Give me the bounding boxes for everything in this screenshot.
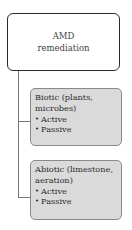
bullet-text: Passive — [41, 124, 72, 134]
list-item: • Passive — [35, 196, 118, 206]
biotic-title-line-1: Biotic (plants, — [35, 92, 118, 103]
bullet-text: Active — [41, 114, 67, 124]
abiotic-title-line-2: aeration) — [35, 175, 118, 186]
biotic-title-line-2: microbes) — [35, 103, 118, 114]
bullet-text: Passive — [41, 196, 72, 206]
root-node-label-line-1: AMD — [53, 30, 75, 42]
vertical-connector-line — [18, 71, 19, 198]
abiotic-title-line-1: Abiotic (limestone, — [35, 164, 118, 175]
bullet-text: Active — [41, 186, 67, 196]
root-node-amd-remediation: AMD remediation — [7, 13, 120, 71]
list-item: • Active — [35, 114, 118, 124]
list-item: • Active — [35, 186, 118, 196]
abiotic-node: Abiotic (limestone, aeration) • Active •… — [30, 160, 122, 220]
list-item: • Passive — [35, 124, 118, 134]
biotic-node: Biotic (plants, microbes) • Active • Pas… — [30, 88, 122, 146]
root-node-label-line-2: remediation — [37, 42, 89, 54]
abiotic-bullet-list: • Active • Passive — [35, 186, 118, 206]
biotic-bullet-list: • Active • Passive — [35, 114, 118, 134]
